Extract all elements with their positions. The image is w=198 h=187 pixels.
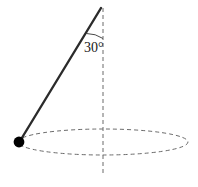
conical-pendulum-figure: 30°	[0, 0, 198, 187]
angle-label: 30°	[84, 40, 104, 55]
background-rect	[0, 0, 198, 187]
diagram-canvas: 30°	[0, 0, 198, 187]
pendulum-bob	[14, 137, 25, 148]
